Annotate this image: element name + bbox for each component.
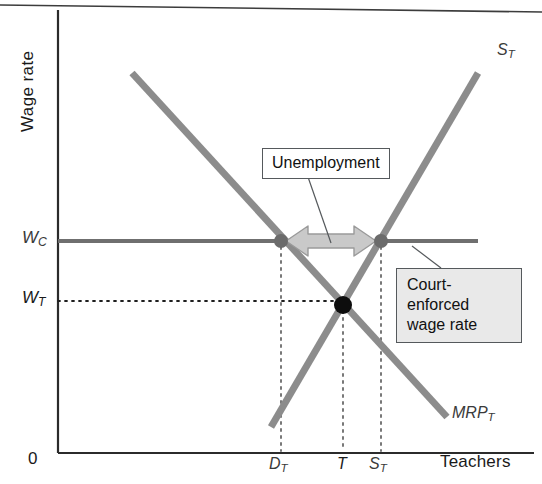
y-tick-label-wt: WT (22, 288, 46, 309)
page-top-border (0, 5, 542, 12)
x-tick-label-dt: DT (269, 455, 288, 474)
y-tick-wc-subscript: C (38, 235, 47, 249)
unemployment-callout-text: Unemployment (272, 154, 380, 171)
demand-curve-mrp (132, 73, 447, 417)
y-tick-wt-subscript: T (38, 295, 45, 309)
supply-curve-label: ST (497, 41, 515, 60)
supply-curve-label-base: S (497, 41, 508, 58)
court-enforced-callout-line2: wage rate (407, 315, 512, 335)
demand-curve-label-subscript: T (488, 411, 495, 423)
unemployment-callout-box: Unemployment (262, 148, 390, 179)
x-tick-st-subscript: T (380, 462, 387, 474)
demand-curve-label-base: MRP (452, 404, 488, 421)
court-callout-leader (412, 246, 441, 268)
origin-label: 0 (28, 449, 37, 469)
y-tick-label-wc: WC (22, 228, 47, 249)
y-tick-wc-base: W (22, 228, 38, 247)
demand-quantity-point (274, 234, 288, 248)
x-tick-dt-subscript: T (281, 462, 288, 474)
demand-curve-label: MRPT (452, 404, 495, 423)
unemployment-callout-leader (308, 177, 331, 243)
y-tick-wt-base: W (22, 288, 38, 307)
court-enforced-callout-line1: Court-enforced (407, 275, 512, 315)
x-tick-dt-base: D (269, 455, 281, 472)
x-tick-t-base: T (337, 455, 347, 472)
y-axis-label: Wage rate (18, 51, 38, 132)
x-axis-label: Teachers (440, 452, 511, 472)
supply-curve-label-subscript: T (508, 48, 515, 60)
supply-quantity-point (374, 234, 388, 248)
economics-diagram-figure: Wage rate Teachers 0 WC WT DT T ST ST MR… (0, 0, 542, 484)
x-tick-st-base: S (369, 455, 380, 472)
court-enforced-callout-box: Court-enforced wage rate (396, 268, 522, 343)
equilibrium-point (334, 296, 352, 314)
x-tick-label-t: T (337, 455, 347, 474)
x-tick-label-st: ST (369, 455, 387, 474)
